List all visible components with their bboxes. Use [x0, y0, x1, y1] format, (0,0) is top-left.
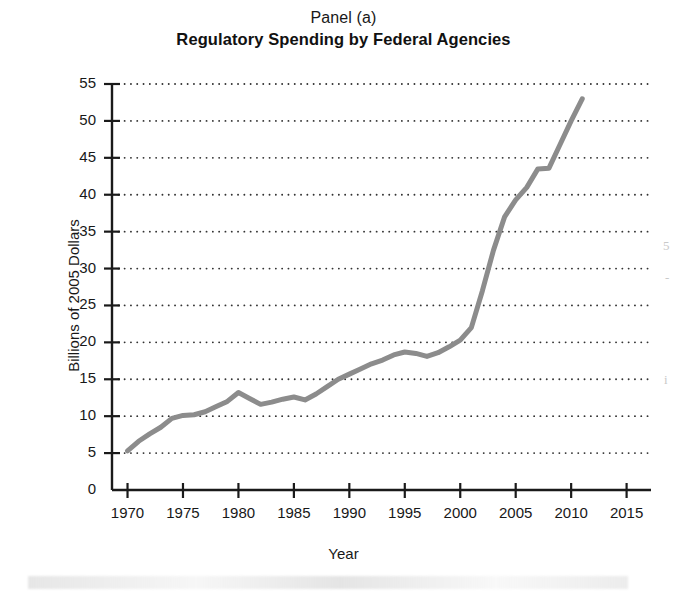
- x-axis-label: Year: [0, 545, 687, 562]
- data-line-regulatory-spending: [128, 99, 583, 451]
- x-tick-label-1995: 1995: [379, 504, 431, 521]
- y-tick-label-0: 0: [56, 480, 96, 497]
- x-tick-label-2015: 2015: [601, 504, 653, 521]
- y-tick-label-5: 5: [56, 443, 96, 460]
- scan-artifact-right-low: i: [664, 372, 668, 388]
- y-tick-label-55: 55: [56, 74, 96, 91]
- x-tick-label-1970: 1970: [102, 504, 154, 521]
- scan-artifact-bottom-band: [28, 576, 628, 589]
- y-tick-label-45: 45: [56, 148, 96, 165]
- x-tick-label-2010: 2010: [545, 504, 597, 521]
- x-tick-label-1990: 1990: [323, 504, 375, 521]
- scan-artifact-right-mid: -: [665, 270, 669, 286]
- x-tick-label-2000: 2000: [434, 504, 486, 521]
- x-tick-label-1975: 1975: [157, 504, 209, 521]
- gridlines: [112, 84, 651, 453]
- x-tick-label-1980: 1980: [212, 504, 264, 521]
- y-axis-label: Billions of 2005 Dollars: [65, 176, 82, 416]
- figure-panel-a: Panel (a) Regulatory Spending by Federal…: [0, 0, 687, 600]
- scan-artifact-right-top: 5: [663, 238, 670, 254]
- y-tick-label-50: 50: [56, 111, 96, 128]
- x-tick-label-1985: 1985: [268, 504, 320, 521]
- x-tick-label-2005: 2005: [490, 504, 542, 521]
